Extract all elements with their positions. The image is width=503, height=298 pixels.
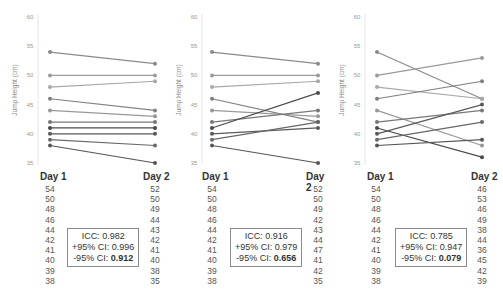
day1-point: [48, 97, 52, 101]
value-cell: 46: [38, 215, 62, 225]
panel-3: 354045505560Jump Height (cm) Day 1 Day 2…: [327, 0, 503, 298]
chart-1-plot: 354045505560Jump Height (cm): [0, 0, 170, 170]
day2-point: [316, 73, 320, 77]
y-tick-label: 35: [354, 160, 361, 166]
y-tick-label: 50: [191, 72, 198, 78]
day1-point: [48, 50, 52, 54]
value-cell: 50: [38, 194, 62, 204]
day1-point: [375, 120, 379, 124]
value-cell: 41: [364, 245, 388, 255]
value-cell: 44: [200, 225, 224, 235]
value-cell: 39: [364, 266, 388, 276]
value-cell: 49: [470, 215, 494, 225]
y-tick-label: 60: [354, 14, 361, 20]
value-cell: 42: [364, 235, 388, 245]
value-cell: 38: [38, 276, 62, 286]
subject-line: [212, 52, 318, 64]
value-cell: 40: [38, 255, 62, 265]
day1-point: [210, 85, 214, 89]
day1-point: [375, 108, 379, 112]
day2-point: [153, 79, 157, 83]
day1-point: [210, 132, 214, 136]
subject-line: [377, 105, 482, 134]
subject-line: [212, 93, 318, 128]
y-tick-label: 45: [354, 102, 361, 108]
y-tick-label: 40: [27, 131, 34, 137]
subject-line: [50, 110, 155, 116]
subject-line: [377, 52, 482, 99]
value-cell: 44: [38, 225, 62, 235]
day2-point: [480, 138, 484, 142]
value-cell: 44: [364, 225, 388, 235]
chart-2-plot: 354045505560Jump Height (cm): [162, 0, 332, 170]
day2-point: [480, 79, 484, 83]
y-tick-label: 35: [27, 160, 34, 166]
day2-point: [480, 56, 484, 60]
chart-3-plot: 354045505560Jump Height (cm): [327, 0, 503, 170]
day2-point: [153, 108, 157, 112]
day2-values: 46534649384436454239: [470, 184, 494, 286]
y-tick-label: 45: [191, 102, 198, 108]
y-axis-label: Jump Height (cm): [338, 64, 346, 115]
day1-point: [48, 126, 52, 130]
day1-point: [48, 108, 52, 112]
day1-header: Day 1: [202, 171, 229, 182]
upper-ci: +95% CI: 0.947: [400, 242, 462, 253]
value-cell: 38: [364, 276, 388, 286]
day2-point: [480, 155, 484, 159]
day1-values: 54504846444241403938: [364, 184, 388, 286]
lower-ci-value: 0.079: [439, 253, 462, 263]
day1-point: [375, 73, 379, 77]
value-cell: 42: [38, 235, 62, 245]
subject-line: [377, 81, 482, 99]
day1-point: [210, 97, 214, 101]
value-cell: 42: [470, 266, 494, 276]
subject-line: [377, 140, 482, 146]
day1-point: [210, 138, 214, 142]
day2-point: [480, 97, 484, 101]
day2-point: [480, 120, 484, 124]
lower-ci: -95% CI: 0.079: [400, 253, 462, 264]
day2-point: [316, 108, 320, 112]
day1-point: [48, 143, 52, 147]
value-cell: 46: [470, 184, 494, 194]
value-cell: 48: [200, 204, 224, 214]
day2-point: [480, 143, 484, 147]
icc-box: ICC: 0.785 +95% CI: 0.947 -95% CI: 0.079: [395, 228, 467, 267]
value-cell: 46: [470, 204, 494, 214]
day2-point: [480, 108, 484, 112]
day2-point: [153, 73, 157, 77]
day1-point: [375, 143, 379, 147]
y-tick-label: 40: [354, 131, 361, 137]
value-cell: 46: [200, 215, 224, 225]
upper-ci: +95% CI: 0.979: [235, 242, 297, 253]
day2-point: [316, 161, 320, 165]
value-cell: 38: [470, 225, 494, 235]
day2-point: [316, 91, 320, 95]
icc-value: ICC: 0.916: [235, 231, 297, 242]
y-tick-label: 40: [191, 131, 198, 137]
value-cell: 54: [200, 184, 224, 194]
day1-point: [48, 120, 52, 124]
day2-point: [153, 143, 157, 147]
lower-ci: -95% CI: 0.912: [72, 253, 134, 264]
day1-point: [375, 85, 379, 89]
day1-point: [48, 132, 52, 136]
day1-point: [210, 73, 214, 77]
day1-header: Day 1: [367, 171, 394, 182]
day1-point: [375, 138, 379, 142]
day1-point: [375, 97, 379, 101]
day1-point: [375, 132, 379, 136]
subject-line: [212, 145, 318, 163]
day2-point: [153, 126, 157, 130]
lower-ci-label: -95% CI:: [73, 253, 111, 263]
value-cell: 54: [364, 184, 388, 194]
panel-1: 354045505560Jump Height (cm) Day 1 Day 2…: [0, 0, 170, 298]
lower-ci: -95% CI: 0.656: [235, 253, 297, 264]
value-cell: 44: [470, 235, 494, 245]
y-tick-label: 50: [27, 72, 34, 78]
subject-line: [50, 81, 155, 87]
subject-line: [377, 58, 482, 76]
value-cell: 41: [200, 245, 224, 255]
subject-line: [377, 122, 482, 140]
